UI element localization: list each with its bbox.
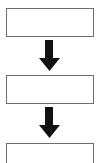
flowchart-step-2-box bbox=[6, 75, 94, 104]
flowchart-step-1-box bbox=[6, 8, 94, 37]
flowchart-step-3-box bbox=[6, 143, 94, 163]
down-arrow-icon bbox=[38, 107, 61, 139]
down-arrow-icon bbox=[38, 40, 61, 72]
